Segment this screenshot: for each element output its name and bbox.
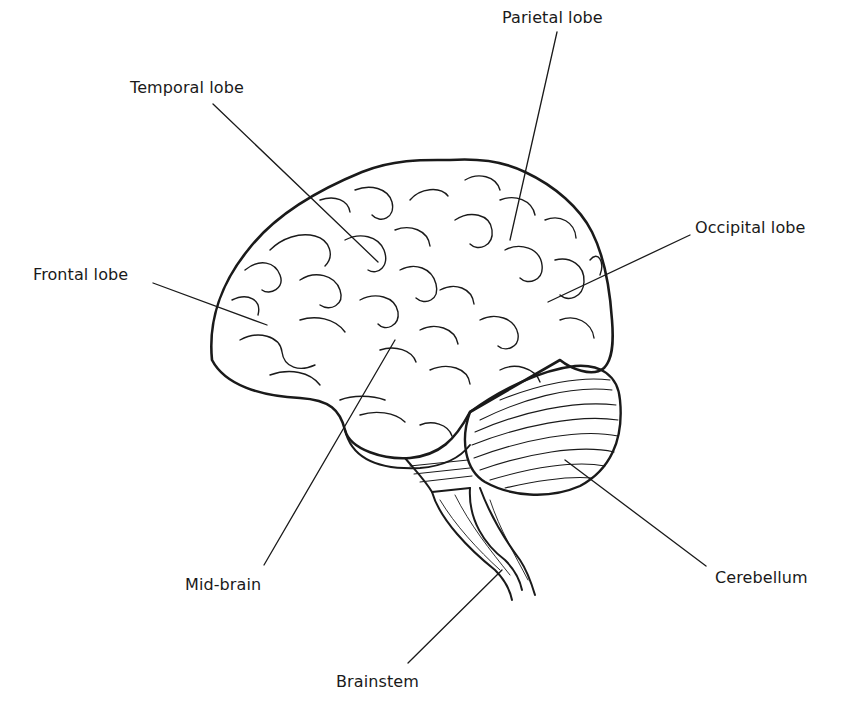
leader-lines	[153, 32, 706, 663]
label-frontal-lobe: Frontal lobe	[33, 265, 128, 284]
cerebellum-outline	[465, 366, 621, 495]
label-brainstem: Brainstem	[336, 672, 419, 691]
leader-occipital-lobe	[548, 235, 690, 302]
label-occipital-lobe: Occipital lobe	[695, 218, 805, 237]
leader-temporal-lobe	[213, 104, 378, 262]
label-temporal-lobe: Temporal lobe	[130, 78, 244, 97]
label-cerebellum: Cerebellum	[715, 568, 808, 587]
leader-cerebellum	[565, 460, 706, 566]
label-mid-brain: Mid-brain	[185, 575, 261, 594]
cerebrum-outline	[211, 160, 612, 459]
label-parietal-lobe: Parietal lobe	[502, 8, 603, 27]
leader-brainstem	[408, 570, 502, 663]
brain-illustration	[0, 0, 861, 724]
leader-frontal-lobe	[153, 283, 267, 325]
leader-mid-brain	[264, 340, 395, 565]
